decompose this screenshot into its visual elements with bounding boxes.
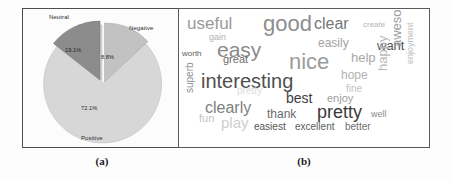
word-cloud-term: good [263, 13, 312, 35]
word-cloud-term: useful [187, 15, 232, 32]
word-cloud-term: easiest [254, 122, 286, 132]
pie-chart: Neutral Negative Positive 19.1% 8.8% 72.… [23, 9, 181, 147]
word-cloud-term: superb [185, 62, 195, 93]
word-cloud: usefulgoodclearcreategaineasilywantworth… [179, 9, 429, 147]
figure-container: Neutral Negative Positive 19.1% 8.8% 72.… [0, 0, 452, 181]
pie-chart-svg [23, 9, 181, 147]
word-cloud-term: hope [341, 69, 368, 81]
word-cloud-term: enjoyment [406, 22, 415, 64]
word-cloud-term: worth [182, 50, 202, 58]
word-cloud-term: happy [376, 36, 389, 71]
word-cloud-term: fun [199, 113, 214, 124]
word-cloud-term: pretty [237, 86, 262, 96]
pie-value-negative: 8.8% [101, 54, 114, 60]
pie-label-positive: Positive [81, 135, 103, 141]
word-cloud-term: pretty [317, 103, 362, 121]
word-cloud-term: excellent [295, 122, 334, 132]
word-cloud-term: easily [318, 37, 349, 49]
pie-label-negative: Negative [129, 25, 153, 31]
word-cloud-term: great [223, 54, 248, 65]
word-cloud-term: well [371, 110, 387, 119]
caption-panel-a: (a) [72, 155, 132, 167]
pie-value-positive: 72.1% [81, 105, 97, 111]
word-cloud-term: thank [267, 108, 296, 120]
pie-label-neutral: Neutral [49, 14, 69, 20]
panel-a-pie-chart: Neutral Negative Positive 19.1% 8.8% 72.… [22, 8, 182, 148]
word-cloud-term: create [363, 21, 385, 29]
word-cloud-term: play [221, 115, 249, 130]
word-cloud-term: best [286, 91, 312, 105]
word-cloud-term: better [345, 122, 371, 132]
word-cloud-term: help [351, 51, 376, 64]
panel-b-word-cloud: usefulgoodclearcreategaineasilywantworth… [178, 8, 430, 148]
word-cloud-term: nice [289, 51, 329, 73]
word-cloud-term: awesome [390, 8, 403, 47]
caption-panel-b: (b) [274, 155, 334, 167]
word-cloud-term: clear [314, 16, 349, 32]
pie-value-neutral: 19.1% [65, 47, 81, 53]
